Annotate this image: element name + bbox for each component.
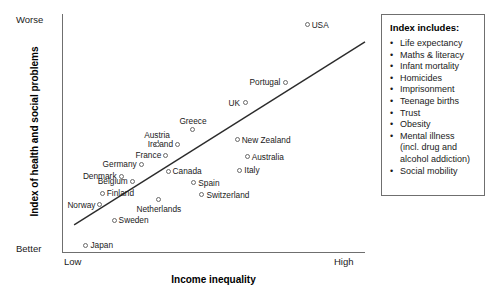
data-point-label: Germany xyxy=(103,160,137,168)
data-point-label: Netherlands xyxy=(136,205,181,213)
legend-box: Index includes: Life expectancyMaths & l… xyxy=(381,14,485,196)
data-point-label: Australia xyxy=(252,153,284,161)
data-point xyxy=(130,179,135,184)
legend-item: Imprisonment xyxy=(390,84,478,96)
legend-item: Maths & literacy xyxy=(390,50,478,62)
data-point-label: Italy xyxy=(244,166,259,174)
data-point-label: France xyxy=(135,151,161,159)
data-point-label: UK xyxy=(229,99,241,107)
data-point xyxy=(283,80,288,85)
data-point-label: Spain xyxy=(198,179,219,187)
legend-title: Index includes: xyxy=(390,22,478,33)
data-point-label: Ireland xyxy=(148,140,173,148)
data-point xyxy=(112,218,117,223)
data-point-label: Austria xyxy=(144,131,170,139)
legend-item: alcohol addiction) xyxy=(390,154,478,166)
chart-root: Worse Better Low High Income inequality … xyxy=(0,0,494,297)
legend-item: Mental illness xyxy=(390,131,478,143)
data-point-label: Greece xyxy=(179,117,206,125)
data-point-label: Finland xyxy=(107,189,134,197)
data-point-label: Canada xyxy=(173,167,202,175)
legend-item: Obesity xyxy=(390,119,478,131)
legend-item: Teenage births xyxy=(390,96,478,108)
data-point-label: Sweden xyxy=(119,216,149,224)
trend-line xyxy=(62,14,365,253)
x-axis-title: Income inequality xyxy=(62,274,365,285)
data-point xyxy=(100,191,105,196)
data-point xyxy=(166,169,171,174)
data-point-label: Norway xyxy=(67,201,95,209)
x-axis-start-label: Low xyxy=(64,256,81,267)
x-axis-end-label: High xyxy=(334,256,354,267)
legend-item: Homicides xyxy=(390,73,478,85)
plot-area: USAPortugalUKNew ZealandGreeceIrelandFra… xyxy=(62,14,365,253)
legend-item: Social mobility xyxy=(390,166,478,178)
legend-item: Trust xyxy=(390,108,478,120)
data-point xyxy=(175,142,180,147)
data-point xyxy=(139,162,144,167)
data-point-label: USA xyxy=(312,21,329,29)
data-point-label: Portugal xyxy=(250,78,281,86)
data-point xyxy=(155,142,160,147)
y-axis-title: Index of health and social problems xyxy=(29,12,40,252)
data-point-label: New Zealand xyxy=(242,136,291,144)
data-point-label: Japan xyxy=(90,241,113,249)
data-point-label: Belgium xyxy=(98,177,128,185)
data-point xyxy=(237,168,242,173)
legend-list: Life expectancyMaths & literacyInfant mo… xyxy=(390,38,478,177)
legend-item: Infant mortality xyxy=(390,61,478,73)
legend-item: (incl. drug and xyxy=(390,142,478,154)
data-point xyxy=(243,100,248,105)
legend-item: Life expectancy xyxy=(390,38,478,50)
data-point-label: Switzerland xyxy=(206,191,249,199)
